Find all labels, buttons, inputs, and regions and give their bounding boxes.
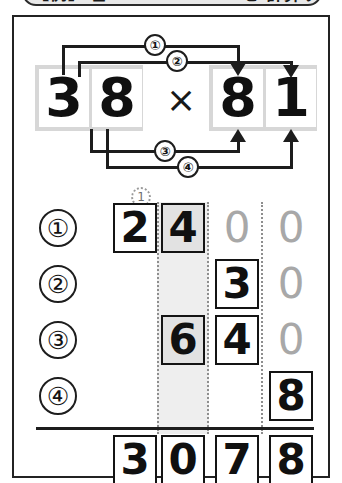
total-cell-c3: 8 [269,435,313,483]
row-label-1: ① [39,209,77,247]
title-banner: 【例】 ◻ × 81 = 38 × 81 を 計算する [22,0,322,6]
cell-r3-c1: 6 [161,315,205,365]
cell-r3-c3: 0 [269,315,313,365]
worksheet-page: 【例】 ◻ × 81 = 38 × 81 を 計算する 3 8 × 8 1 ① … [0,0,342,483]
step4-badge: ④ [177,156,199,178]
cell-r2-c3: 0 [269,259,313,309]
multiplicand-digit-tens: 3 [39,69,89,127]
multiplication-operator: × [159,79,203,119]
cell-r1-c1: 4 [161,203,205,253]
step1-badge: ① [144,34,166,56]
total-cell-c0: 3 [113,435,157,483]
cell-r1-c3: 0 [269,203,313,253]
step3-line-vertical-end [237,141,240,153]
total-cell-c1: 0 [161,435,205,483]
row-label-2: ② [39,265,77,303]
total-cell-c2: 7 [215,435,259,483]
step1-line-vertical-start [62,45,65,75]
step4-arrowhead [283,129,299,142]
multiplication-setup: 3 8 × 8 1 ① ② ③ [14,17,332,182]
step4-line-vertical-start [106,129,109,169]
partial-products-table: 1 ① 2 4 0 0 ② 3 0 ③ 6 4 0 ④ 8 3 0 7 8 [14,182,332,478]
multiplicand-digit-ones: 8 [92,69,142,127]
cell-r3-c2: 4 [215,315,259,365]
step3-badge: ③ [154,140,176,162]
cell-r1-c0: 2 [113,203,157,253]
sum-rule-line [36,427,314,430]
multiplier-digit-tens: 8 [213,69,263,127]
diagram-frame: 3 8 × 8 1 ① ② ③ [12,15,330,478]
step2-badge: ② [166,50,188,72]
cell-r4-c3: 8 [269,371,313,421]
row-label-3: ③ [39,321,77,359]
title-banner-text: 【例】 ◻ × 81 = 38 × 81 を 計算する [32,0,322,5]
step1-arrowhead [230,63,246,76]
row-label-4: ④ [39,377,77,415]
column-divider-tens [261,202,263,434]
step4-line-vertical-end [290,141,293,169]
step4-line-horizontal [106,166,293,169]
cell-r1-c2: 0 [215,203,259,253]
step3-arrowhead [230,129,246,142]
step2-arrowhead [283,65,299,78]
cell-r2-c2: 3 [215,259,259,309]
